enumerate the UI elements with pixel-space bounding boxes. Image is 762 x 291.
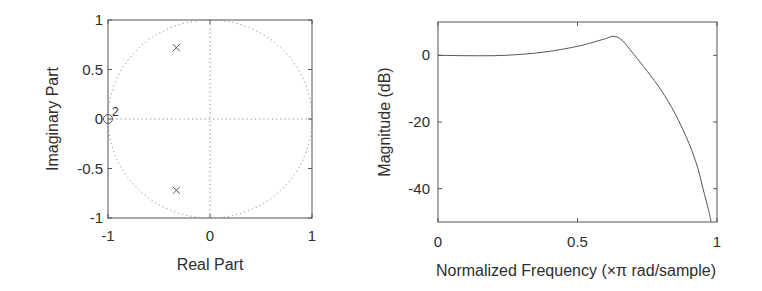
mag-ytick-label: -40 — [408, 180, 430, 197]
mag-xtick-label: 1 — [713, 233, 721, 250]
mag-ylabel: Magnitude (dB) — [376, 67, 393, 176]
figure-canvas: -10110.50-0.5-1 2 Real Part Imaginary Pa… — [0, 0, 762, 291]
mag-xlabel: Normalized Frequency (×π rad/sample) — [436, 262, 716, 279]
pz-xtick-label: -1 — [101, 227, 114, 244]
pz-xlabel: Real Part — [177, 256, 244, 273]
mag-ytick-label: -20 — [408, 113, 430, 130]
pz-ytick-label: -0.5 — [77, 160, 103, 177]
pz-ylabel: Imaginary Part — [44, 66, 61, 171]
zero-multiplicity-label: 2 — [112, 105, 119, 119]
mag-ytick-label: 0 — [422, 46, 430, 63]
mag-xtick-label: 0.5 — [567, 233, 588, 250]
mag-xtick-label: 0 — [434, 233, 442, 250]
pz-xtick-label: 0 — [206, 227, 214, 244]
pz-xtick-label: 1 — [308, 227, 316, 244]
pz-ytick-label: 0 — [95, 110, 103, 127]
pz-ytick-label: -1 — [90, 209, 103, 226]
pz-ytick-label: 1 — [95, 11, 103, 28]
mag-axes-frame — [438, 22, 717, 222]
pz-ytick-label: 0.5 — [82, 61, 103, 78]
magnitude-plot: 00.510-20-40 Normalized Frequency (×π ra… — [376, 22, 721, 279]
pole-zero-plot: -10110.50-0.5-1 2 Real Part Imaginary Pa… — [44, 11, 316, 273]
